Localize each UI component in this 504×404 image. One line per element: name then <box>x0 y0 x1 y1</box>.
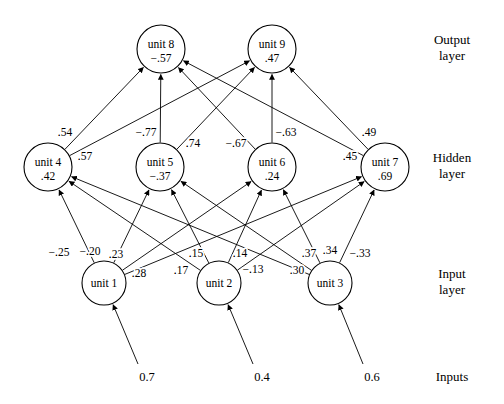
w-unit2-unit6: .14 <box>233 247 248 259</box>
input-1-value: 0.7 <box>139 370 155 384</box>
node-unit5[interactable]: unit 5−.37 <box>136 143 184 191</box>
w-unit2-unit5: .15 <box>189 247 204 259</box>
w-unit6-unit8: −.67 <box>226 137 247 149</box>
node-unit3[interactable]: unit 3 <box>308 261 352 305</box>
w-unit4-unit8: .54 <box>58 126 73 138</box>
layer-label-output: Output <box>434 32 471 47</box>
w-unit6-unit9: −.63 <box>276 126 297 138</box>
node-unit9[interactable]: unit 9.47 <box>248 25 296 73</box>
layer-label-inputs: Inputs <box>436 369 469 384</box>
w-unit3-unit6: .34 <box>323 244 338 256</box>
node-value-unit4: .42 <box>41 170 56 182</box>
node-name-unit1: unit 1 <box>91 277 118 289</box>
input-3-value: 0.6 <box>364 370 380 384</box>
w-unit5-unit9: .74 <box>186 137 201 149</box>
input-2-value: 0.4 <box>254 370 270 384</box>
node-value-unit8: −.57 <box>151 52 172 64</box>
input-arrows-group: 0.70.40.6 <box>113 305 380 384</box>
node-unit7[interactable]: unit 7.69 <box>361 143 409 191</box>
node-value-unit5: −.37 <box>150 170 171 182</box>
node-name-unit7: unit 7 <box>372 156 399 168</box>
input-arrow-unit2 <box>228 305 253 364</box>
node-name-unit3: unit 3 <box>317 277 344 289</box>
node-unit8[interactable]: unit 8−.57 <box>137 25 185 73</box>
node-name-unit8: unit 8 <box>148 38 175 50</box>
node-value-unit9: .47 <box>265 52 280 64</box>
node-name-unit9: unit 9 <box>259 38 286 50</box>
node-name-unit2: unit 2 <box>206 277 233 289</box>
layer-label-input-line2: layer <box>439 282 466 297</box>
input-arrow-unit3 <box>339 305 363 364</box>
w-unit5-unit8: −.77 <box>136 126 157 138</box>
node-unit4[interactable]: unit 4.42 <box>24 143 72 191</box>
edges-group <box>59 61 374 275</box>
edge-unit2-unit7 <box>237 182 364 271</box>
node-name-unit4: unit 4 <box>35 156 62 168</box>
layer-label-output-line2: layer <box>439 48 466 63</box>
w-unit3-unit5: .37 <box>302 247 317 259</box>
w-unit7-unit8: .45 <box>343 150 358 162</box>
edge-unit4-unit9 <box>70 61 250 156</box>
nodes-group: unit 1unit 2unit 3unit 4.42unit 5−.37uni… <box>24 25 409 305</box>
w-unit1-unit7: .28 <box>132 267 147 279</box>
node-unit2[interactable]: unit 2 <box>197 261 241 305</box>
w-unit2-unit4: .17 <box>174 264 189 276</box>
w-unit1-unit6: .23 <box>109 248 124 260</box>
w-unit1-unit5: −.20 <box>80 245 101 257</box>
w-unit3-unit7: −.33 <box>350 247 371 259</box>
layer-label-hidden: Hidden <box>433 150 472 165</box>
node-unit6[interactable]: unit 6.24 <box>248 143 296 191</box>
w-unit4-unit9: .57 <box>78 150 93 162</box>
edge-unit7-unit8 <box>184 61 364 156</box>
edge-unit2-unit4 <box>69 181 200 270</box>
layer-labels-group: OutputlayerHiddenlayerInputlayerInputs <box>433 32 472 384</box>
layer-label-hidden-line2: layer <box>439 166 466 181</box>
w-unit1-unit4: −.25 <box>49 246 70 258</box>
w-unit2-unit7: −.13 <box>243 263 264 275</box>
node-value-unit6: .24 <box>265 170 280 182</box>
node-value-unit7: .69 <box>378 170 393 182</box>
input-arrow-unit1 <box>113 305 138 364</box>
node-unit1[interactable]: unit 1 <box>82 261 126 305</box>
neural-network-diagram: 0.70.40.6 unit 1unit 2unit 3unit 4.42uni… <box>0 0 504 404</box>
edge-unit1-unit6 <box>123 181 252 270</box>
node-name-unit6: unit 6 <box>259 156 286 168</box>
w-unit3-unit4: .30 <box>290 264 305 276</box>
node-name-unit5: unit 5 <box>147 156 174 168</box>
layer-label-input: Input <box>438 266 466 281</box>
edge-unit5-unit8 <box>160 74 161 142</box>
w-unit7-unit9: .49 <box>362 126 377 138</box>
